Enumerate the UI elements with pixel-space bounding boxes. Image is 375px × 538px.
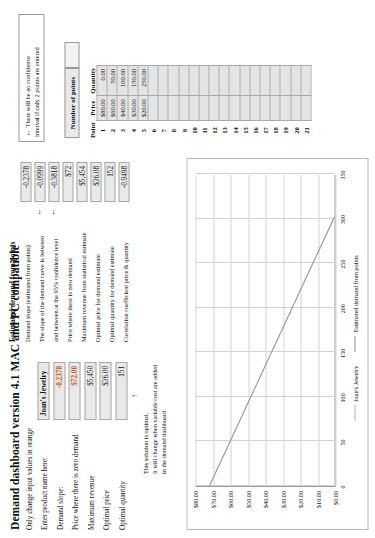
table-row: 15: [239, 66, 249, 140]
price-cell[interactable]: [198, 96, 208, 121]
product-name-input[interactable]: Joan's Jewelry: [37, 362, 49, 420]
price-cell[interactable]: [178, 96, 188, 121]
estimated-label-2: and between at the 95% confidence level: [52, 239, 59, 342]
dashboard-sheet: Demand dashboard version 4.1 MAC and PC …: [0, 0, 375, 538]
input-row-value-0[interactable]: -0.2378: [53, 362, 65, 420]
table-row: 21: [300, 66, 310, 140]
points-table-body: 1$80.000.002$60.0050.003$40.00100.004$30…: [97, 66, 311, 140]
input-row-value-2: $5,450: [84, 362, 96, 420]
estimated-value-2: -0.3818: [48, 162, 59, 202]
quantity-cell[interactable]: 250.00: [137, 66, 147, 96]
quantity-cell[interactable]: [147, 66, 157, 96]
legend-item-0: Joan's Jewelry: [351, 366, 358, 421]
quantity-cell[interactable]: [209, 66, 219, 96]
quantity-cell[interactable]: [270, 66, 280, 96]
number-of-points-label: Number of points: [64, 68, 79, 138]
quantity-cell[interactable]: [188, 66, 198, 96]
row-index: 8: [168, 121, 178, 140]
quantity-cell[interactable]: [300, 66, 310, 96]
quantity-cell[interactable]: [249, 66, 259, 96]
legend-item-1: Estimated demand from points: [351, 255, 358, 351]
legend-swatch-0: [354, 405, 355, 421]
price-cell[interactable]: [260, 96, 270, 121]
price-cell[interactable]: [270, 96, 280, 121]
price-cell[interactable]: [147, 96, 157, 121]
price-cell[interactable]: [188, 96, 198, 121]
row-index: 17: [260, 121, 270, 140]
confidence-note-box: ← There will be no confidence interval i…: [18, 14, 44, 142]
product-name-label: Enter product name here:: [41, 457, 49, 530]
row-index: 14: [229, 121, 239, 140]
demand-chart: $0.00$10.00$20.00$30.00$40.00$50.00$60.0…: [186, 158, 368, 530]
chart-plot-area: [195, 175, 335, 487]
estimated-arrow-icon-1: ←: [34, 208, 42, 216]
price-cell[interactable]: $80.00: [97, 96, 107, 121]
gridline-horizontal: [335, 175, 336, 486]
x-axis-tick-label: 200: [338, 304, 345, 313]
quantity-cell[interactable]: 150.00: [127, 66, 137, 96]
quantity-cell[interactable]: [260, 66, 270, 96]
optimal-note-line-3: in the demand dashboard: [160, 411, 167, 474]
input-row-label-2: Maximum revenue: [88, 476, 96, 531]
row-index: 21: [300, 121, 310, 140]
row-index: 2: [107, 121, 117, 140]
y-axis-tick-label: $0.00: [332, 491, 339, 529]
price-cell[interactable]: [239, 96, 249, 121]
price-cell[interactable]: [290, 96, 300, 121]
row-index: 1: [97, 121, 107, 140]
y-axis-tick-label: $40.00: [262, 491, 269, 529]
quantity-cell[interactable]: [290, 66, 300, 96]
quantity-cell[interactable]: [178, 66, 188, 96]
y-axis-tick-label: $20.00: [297, 491, 304, 529]
estimated-label-7: Correlation coefficient price & quantity: [122, 242, 129, 342]
price-cell[interactable]: [219, 96, 229, 121]
price-cell[interactable]: $30.00: [127, 96, 137, 121]
row-index: 15: [239, 121, 249, 140]
legend-label-1: Estimated demand from points: [351, 255, 358, 332]
table-row: 6: [147, 66, 157, 140]
price-cell[interactable]: [300, 96, 310, 121]
y-axis-tick-label: $60.00: [227, 491, 234, 529]
table-row: 18: [270, 66, 280, 140]
table-row: 20: [290, 66, 300, 140]
x-axis-tick-label: 300: [338, 215, 345, 224]
instruction-text: Only change input values in orange: [26, 428, 34, 530]
legend-label-0: Joan's Jewelry: [351, 366, 358, 402]
y-axis-tick-label: $30.00: [279, 491, 286, 529]
estimated-label-4: Maximum revenue from statistical estimat…: [80, 233, 87, 342]
quantity-cell[interactable]: 0.00: [97, 66, 107, 96]
quantity-cell[interactable]: 100.00: [117, 66, 127, 96]
quantity-cell[interactable]: [158, 66, 168, 96]
estimated-label-0: Demand slope (estimated from points): [24, 245, 31, 342]
price-cell[interactable]: [158, 96, 168, 121]
spreadsheet-page: Demand dashboard version 4.1 MAC and PC …: [0, 0, 375, 538]
chart-series-line: [209, 217, 334, 486]
input-row-value-1[interactable]: $72.00: [68, 362, 80, 420]
estimated-label-5: Optimal price for demand estimate: [94, 254, 101, 342]
row-index: 3: [117, 121, 127, 140]
row-index: 9: [178, 121, 188, 140]
row-index: 18: [270, 121, 280, 140]
quantity-cell[interactable]: [219, 66, 229, 96]
price-cell[interactable]: $40.00: [117, 96, 127, 121]
estimated-label-1: The slope of the demand curve is between: [38, 236, 45, 342]
price-cell[interactable]: $60.00: [107, 96, 117, 121]
row-index: 11: [198, 121, 208, 140]
input-row-label-0: Demand slope:: [57, 487, 65, 530]
quantity-cell[interactable]: [168, 66, 178, 96]
price-cell[interactable]: [280, 96, 290, 121]
quantity-cell[interactable]: [280, 66, 290, 96]
price-cell[interactable]: [249, 96, 259, 121]
row-index: 13: [219, 121, 229, 140]
quantity-cell[interactable]: [239, 66, 249, 96]
confidence-note-arrow-icon: ←: [22, 129, 31, 137]
price-cell[interactable]: [209, 96, 219, 121]
quantity-cell[interactable]: 50.00: [107, 66, 117, 96]
points-table[interactable]: Point Price Quantity 1$80.000.002$60.005…: [88, 65, 311, 140]
price-cell[interactable]: [168, 96, 178, 121]
quantity-cell[interactable]: [198, 66, 208, 96]
quantity-cell[interactable]: [229, 66, 239, 96]
price-cell[interactable]: [229, 96, 239, 121]
price-cell[interactable]: $20.00: [137, 96, 147, 121]
number-of-points-value: [64, 42, 79, 68]
